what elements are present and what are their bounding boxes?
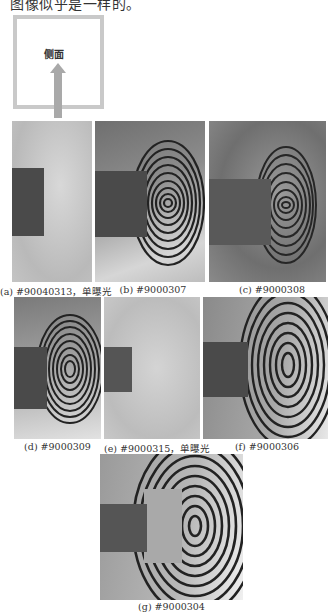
- body-text: 图像似乎是一样的。: [10, 0, 141, 13]
- figure-a-caption: (a) #90040313，单曝光: [0, 284, 106, 298]
- figure-e-caption: (e) #9000315，单曝光: [104, 441, 204, 455]
- figure-e-image: [104, 297, 200, 439]
- figure-f-image: [203, 297, 328, 439]
- specimen-block: [95, 171, 147, 237]
- figure-g-image: [100, 454, 243, 600]
- figure-c-caption: (c) #9000308: [222, 284, 322, 295]
- arrow-shaft: [54, 72, 62, 118]
- figure-a-image: [12, 121, 92, 282]
- specimen-block: [14, 347, 47, 409]
- specimen-block: [203, 342, 248, 397]
- figure-d-caption: (d) #9000309: [14, 441, 101, 452]
- figure-c-image: [209, 121, 326, 282]
- specimen-block: [104, 347, 132, 392]
- specimen-block: [12, 168, 44, 236]
- figure-b-image: [95, 121, 205, 282]
- diagram-label: 侧面: [44, 46, 64, 61]
- figure-b-caption: (b) #9000307: [108, 284, 198, 295]
- figure-f-caption: (f) #9000306: [212, 441, 322, 452]
- figure-g-caption: (g) #9000304: [100, 601, 243, 612]
- specimen-block: [209, 179, 271, 245]
- figure-d-image: [14, 297, 101, 439]
- specimen-block: [100, 504, 147, 552]
